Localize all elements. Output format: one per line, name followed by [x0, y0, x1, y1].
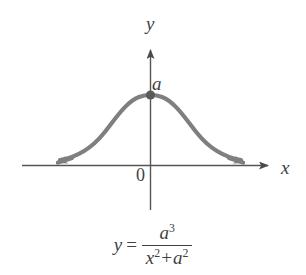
numerator-base: a: [159, 222, 169, 243]
equation-fraction: a3 x2+a2: [142, 222, 192, 269]
origin-label: 0: [136, 166, 145, 184]
equation-relation: =: [126, 234, 137, 256]
x-axis-label: x: [281, 158, 289, 177]
denominator-term2-exponent: 2: [182, 247, 188, 260]
denominator-operator: +: [160, 247, 173, 268]
equation-lhs: y: [114, 234, 122, 256]
equation-block: y = a3 x2+a2: [0, 222, 306, 269]
equation-numerator: a3: [155, 222, 178, 245]
numerator-exponent: 3: [169, 222, 175, 235]
figure-container: y x a 0 y = a3 x2+a2: [0, 0, 306, 275]
equation-denominator: x2+a2: [142, 246, 192, 269]
denominator-term2-base: a: [173, 247, 183, 268]
y-axis-label: y: [146, 14, 154, 33]
peak-value-label: a: [152, 74, 162, 93]
